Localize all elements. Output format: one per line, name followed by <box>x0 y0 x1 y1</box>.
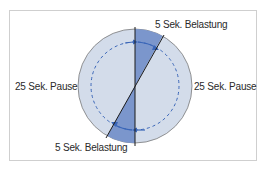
label-load-bottom: 5 Sek. Belastung <box>55 142 127 154</box>
label-pause-right: 25 Sek. Pause <box>194 81 256 93</box>
label-pause-left: 25 Sek. Pause <box>15 81 77 93</box>
label-load-top: 5 Sek. Belastung <box>155 19 227 31</box>
